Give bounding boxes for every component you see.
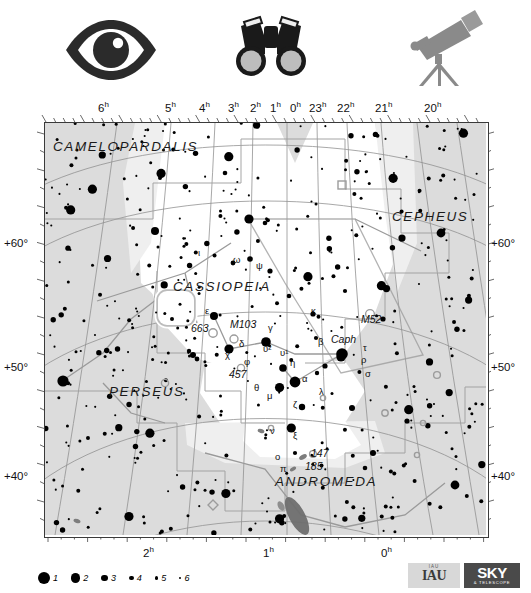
star — [68, 445, 70, 447]
star — [227, 481, 229, 483]
sky-chart[interactable]: CAMELOPARDALISCASSIOPEIACEPHEUSPERSEUSAN… — [44, 122, 489, 538]
star — [321, 277, 324, 280]
star-label: μ — [267, 390, 272, 401]
star — [413, 479, 417, 483]
star — [454, 327, 459, 332]
star-label: 457 — [229, 368, 248, 380]
star — [235, 188, 237, 190]
star — [293, 269, 296, 272]
star — [75, 350, 78, 353]
magnitude-dot — [71, 573, 80, 582]
star-label: φ — [244, 356, 250, 367]
star — [450, 348, 452, 350]
ra-label-top-8: 22h — [337, 100, 355, 114]
star — [431, 330, 433, 332]
star — [287, 387, 289, 389]
star — [68, 359, 70, 361]
constellation-label: ANDROMEDA — [274, 474, 377, 489]
star — [213, 254, 217, 258]
ra-label-top-3: 3h — [228, 100, 239, 114]
star — [51, 187, 53, 189]
star — [254, 355, 256, 357]
star — [173, 131, 176, 134]
star — [426, 358, 433, 365]
star — [59, 261, 61, 263]
star — [321, 168, 323, 170]
star — [167, 490, 169, 492]
star — [426, 125, 429, 128]
star — [476, 173, 478, 175]
star — [131, 226, 135, 230]
star — [186, 319, 189, 322]
star — [163, 439, 166, 442]
star — [53, 346, 55, 348]
star — [60, 527, 65, 532]
star — [479, 499, 483, 503]
star — [428, 502, 432, 506]
star — [156, 169, 165, 178]
star — [299, 404, 305, 410]
star-label: M52 — [361, 313, 382, 325]
magnitude-label: 3 — [111, 573, 116, 583]
star — [287, 294, 292, 299]
star — [389, 174, 398, 183]
star — [353, 354, 355, 356]
star — [124, 512, 133, 521]
milky-way-lower-white — [243, 421, 361, 459]
star-label: σ — [365, 368, 371, 379]
star — [262, 206, 265, 209]
sky-logo-sub: & TELESCOPE — [474, 580, 511, 586]
star — [370, 399, 372, 401]
star — [406, 394, 408, 396]
star — [261, 502, 263, 504]
star — [335, 264, 340, 269]
star — [214, 479, 216, 481]
star — [470, 276, 474, 280]
star — [136, 310, 138, 312]
star — [390, 516, 394, 520]
star — [451, 447, 454, 450]
star — [149, 161, 152, 164]
star — [50, 224, 52, 226]
star — [427, 403, 432, 408]
star — [384, 138, 386, 140]
star — [139, 451, 142, 454]
star — [188, 190, 190, 192]
star — [326, 236, 331, 241]
star — [111, 433, 113, 435]
star — [397, 506, 400, 509]
star — [104, 348, 109, 353]
star — [361, 527, 363, 529]
star — [383, 285, 390, 292]
star — [230, 193, 232, 195]
star — [70, 369, 73, 372]
star — [197, 414, 201, 418]
star — [331, 392, 334, 395]
star — [290, 377, 301, 388]
star — [371, 248, 373, 250]
star — [363, 507, 365, 509]
star — [468, 407, 471, 410]
star — [146, 128, 149, 131]
star — [218, 214, 222, 218]
star — [134, 429, 139, 434]
star — [104, 355, 107, 358]
star — [334, 515, 337, 518]
star — [418, 189, 422, 193]
star — [361, 225, 363, 227]
star — [450, 297, 453, 300]
star — [412, 385, 415, 388]
star — [426, 398, 428, 400]
star — [394, 342, 397, 345]
star — [308, 282, 311, 285]
star — [61, 485, 64, 488]
star — [442, 148, 445, 151]
star — [169, 527, 173, 531]
star — [183, 238, 185, 240]
star — [144, 129, 146, 131]
star — [65, 441, 67, 443]
star — [349, 405, 355, 411]
star — [474, 421, 476, 423]
sky-chart-canvas: CAMELOPARDALISCASSIOPEIACEPHEUSPERSEUSAN… — [45, 123, 486, 535]
star — [268, 276, 270, 278]
